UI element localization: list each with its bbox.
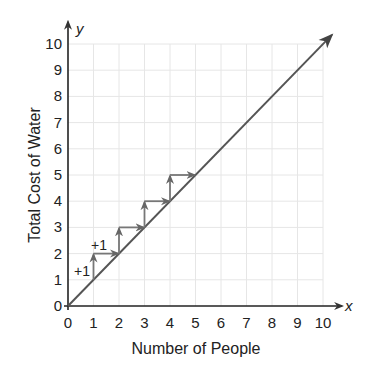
y-tick-label: 7	[54, 114, 62, 131]
y-tick-label: 0	[54, 297, 62, 314]
annotation-plus-one-horizontal: +1	[91, 237, 107, 253]
x-tick-label: 6	[217, 314, 225, 331]
y-tick-label: 5	[54, 166, 62, 183]
y-tick-label: 10	[45, 35, 62, 52]
data-series	[68, 35, 332, 306]
x-tick-label: 0	[64, 314, 72, 331]
y-axis-variable: y	[75, 20, 85, 37]
x-axis-variable: x	[344, 297, 353, 314]
x-tick-label: 4	[166, 314, 174, 331]
y-tick-label: 2	[54, 245, 62, 262]
y-tick-label: 1	[54, 271, 62, 288]
x-axis-title: Number of People	[132, 340, 261, 357]
cost-line	[68, 35, 332, 306]
x-tick-label: 2	[115, 314, 123, 331]
y-tick-label: 6	[54, 140, 62, 157]
x-tick-label: 8	[268, 314, 276, 331]
y-tick-label: 9	[54, 61, 62, 78]
chart: 012345678910012345678910 x y Number of P…	[0, 0, 374, 377]
y-tick-label: 8	[54, 87, 62, 104]
y-axis-title: Total Cost of Water	[26, 107, 43, 243]
y-tick-label: 3	[54, 218, 62, 235]
x-tick-label: 1	[89, 314, 97, 331]
x-tick-label: 10	[315, 314, 332, 331]
y-tick-label: 4	[54, 192, 62, 209]
x-tick-label: 5	[191, 314, 199, 331]
x-tick-label: 3	[140, 314, 148, 331]
x-tick-label: 9	[293, 314, 301, 331]
x-tick-label: 7	[242, 314, 250, 331]
annotation-plus-one-vertical: +1	[74, 263, 90, 279]
